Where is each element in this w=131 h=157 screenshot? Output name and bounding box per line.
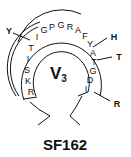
annotation-label: H — [111, 32, 118, 42]
residue: R — [28, 87, 35, 97]
residue: D — [87, 75, 94, 85]
strain-label: SF162 — [43, 136, 87, 153]
residue: S — [24, 65, 30, 75]
left-stem — [30, 102, 50, 125]
residue: P — [49, 22, 55, 32]
residue: K — [25, 76, 31, 86]
loop-label: V3 — [50, 64, 67, 84]
residue: T — [28, 43, 34, 53]
right-stem — [70, 96, 82, 125]
annotation-leader-line — [94, 92, 110, 101]
residue: G — [40, 25, 47, 35]
annotation-leader-line — [97, 57, 112, 60]
annotation-leader-line — [93, 38, 107, 47]
annotation-label: R — [114, 99, 121, 109]
residue: G — [57, 20, 64, 30]
v3-loop-diagram: RKSITIGPGRAFYATGDI YHTR V3 SF162 — [0, 0, 131, 157]
annotation-label: Y — [6, 26, 12, 36]
left-end-cap — [24, 97, 37, 99]
residue: R — [67, 22, 74, 32]
residue: I — [85, 84, 88, 94]
residue: A — [75, 25, 81, 35]
residue-sequence: RKSITIGPGRAFYATGDI — [24, 20, 97, 97]
residue: I — [27, 54, 30, 64]
residue: I — [36, 32, 39, 42]
annotation-label: T — [116, 52, 122, 62]
